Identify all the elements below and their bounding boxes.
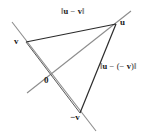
point-label-u: u <box>120 18 125 27</box>
norm-operator: − (− <box>107 61 126 71</box>
line-v-through-origin-to-neg-v <box>12 22 96 131</box>
point-label-v: v <box>14 37 19 46</box>
norm-label-u-minus-neg-v: ‖u − (− v)‖ <box>100 62 137 71</box>
norm-close-paren-bar: )‖ <box>131 61 136 71</box>
norm-close-bar: ‖ <box>82 6 85 16</box>
point-label-origin: 0 <box>44 76 49 85</box>
line-origin-to-u-extended <box>27 11 131 93</box>
segment-v-to-neg-v <box>26 42 80 113</box>
norm-operator: − <box>68 6 77 16</box>
point-label-neg-v: −v <box>70 113 80 122</box>
norm-label-u-minus-v: ‖u − v‖ <box>61 7 85 16</box>
vector-diagram: u v 0 −v ‖u − v‖ ‖u − (− v)‖ <box>0 0 154 137</box>
